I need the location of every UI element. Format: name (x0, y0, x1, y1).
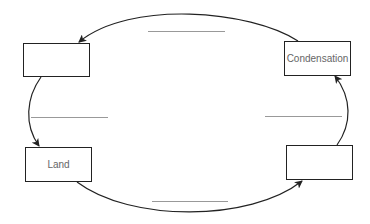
box-label: Land (47, 159, 69, 170)
blank-right[interactable] (265, 116, 342, 117)
box-top-right: Condensation (284, 41, 351, 76)
blank-left[interactable] (31, 117, 108, 118)
box-bottom-right (286, 145, 353, 180)
box-top-left (23, 43, 90, 77)
cycle-arrows (0, 0, 370, 224)
arrow-right (335, 76, 348, 145)
arrow-left (29, 77, 41, 146)
arrow-top (79, 14, 298, 42)
blank-top[interactable] (148, 31, 225, 32)
arrow-bottom (77, 181, 302, 212)
box-bottom-left: Land (25, 147, 92, 182)
box-label: Condensation (287, 53, 349, 64)
blank-bottom[interactable] (152, 201, 228, 202)
